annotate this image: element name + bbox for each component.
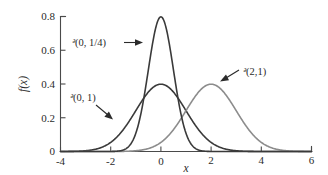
y-tick-label-0-8: 0.8 (41, 10, 55, 22)
y-tick-label-0: 0 (50, 145, 56, 157)
y-tick-label-0-6: 0.6 (41, 44, 55, 56)
x-tick-label-neg2: -2 (106, 155, 115, 167)
y-axis-title: f(x) (17, 76, 30, 92)
y-tick-label-0-4: 0.4 (41, 78, 55, 90)
x-tick-label-neg4: -4 (56, 155, 66, 167)
x-tick-label-4: 4 (259, 154, 265, 166)
y-tick-label-0-2: 0.2 (41, 112, 55, 124)
x-tick-label-6: 6 (309, 154, 315, 166)
x-axis-title: x (182, 162, 189, 174)
narrow-curve-annotation-label: ᵊ(0, 1/4) (72, 36, 106, 49)
x-tick-label-0: 0 (158, 155, 164, 167)
normal-distributions-chart: 0 0.2 0.4 0.6 0.8 -4 -2 0 2 4 6 x f(x) ᵊ… (0, 0, 328, 175)
standard-normal-annotation-label: ᵊ(0, 1) (70, 91, 96, 104)
shifted-normal-annotation-label: ᵊ(2,1) (243, 65, 267, 78)
x-tick-label-2: 2 (208, 154, 214, 166)
